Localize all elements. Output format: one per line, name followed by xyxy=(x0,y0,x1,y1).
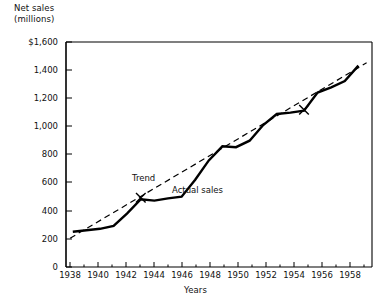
x-marker-1954 xyxy=(299,105,309,115)
y-axis-ticks xyxy=(66,42,72,267)
y-tick-label-200: 200 xyxy=(6,234,58,244)
y-tick-label-1000: 1,000 xyxy=(6,121,58,131)
y-tick-label-400: 400 xyxy=(6,206,58,216)
y-tick-label-0: 0 xyxy=(6,262,58,272)
x-marker-1942 xyxy=(136,193,146,203)
trend-label: Trend xyxy=(132,173,155,183)
y-tick-label-1400: 1,400 xyxy=(6,65,58,75)
chart-figure: Net sales (millions) Years xyxy=(0,0,391,305)
y-axis-title: Net sales (millions) xyxy=(14,3,54,24)
x-tick-label-1958: 1958 xyxy=(332,270,368,280)
plot-area xyxy=(0,0,391,305)
axis-frame xyxy=(66,42,372,267)
x-axis-title: Years xyxy=(0,285,391,296)
actual-sales-series xyxy=(73,66,359,232)
y-tick-label-800: 800 xyxy=(6,149,58,159)
y-tick-label-1600: $1,600 xyxy=(6,37,58,47)
y-tick-label-600: 600 xyxy=(6,177,58,187)
x-axis-ticks xyxy=(70,262,364,267)
y-tick-label-1200: 1,200 xyxy=(6,93,58,103)
actual-sales-label: Actual sales xyxy=(172,185,223,195)
